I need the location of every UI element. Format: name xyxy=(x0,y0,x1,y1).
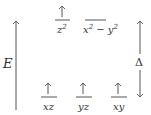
level-z2-label: z2 xyxy=(57,25,67,35)
delta-label: Δ xyxy=(135,57,143,68)
level-xz-label: xz xyxy=(43,102,54,112)
level-x2y2-label: x2 − y2 xyxy=(83,25,118,35)
level-xy-label: xy xyxy=(113,102,124,112)
diagram-canvas xyxy=(0,0,151,115)
energy-axis-label: E xyxy=(3,57,13,70)
level-yz-label: yz xyxy=(78,102,89,112)
